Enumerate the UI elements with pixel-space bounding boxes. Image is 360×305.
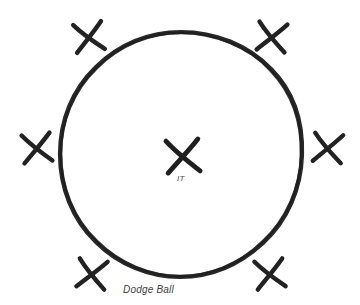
player-x-top-right xyxy=(257,22,288,53)
diagram-canvas xyxy=(0,0,360,305)
it-player-x-center xyxy=(166,139,200,173)
player-x-bottom-right xyxy=(254,258,285,289)
player-x-right xyxy=(313,133,343,163)
it-player-label: IT xyxy=(177,174,185,183)
player-x-top-left xyxy=(73,21,105,53)
diagram-caption: Dodge Ball xyxy=(123,284,174,295)
player-x-bottom-left xyxy=(76,258,107,289)
dodge-ball-diagram: IT Dodge Ball xyxy=(0,0,360,305)
player-x-left xyxy=(22,133,53,164)
